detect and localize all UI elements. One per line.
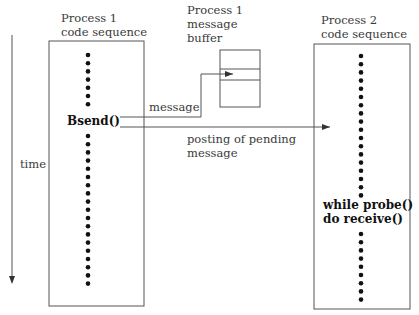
message-buffer: [220, 50, 260, 107]
posting-arrow-label: posting of pending message: [187, 132, 296, 160]
posting-label-line1: posting of pending: [187, 132, 296, 146]
buffer-title-line1: Process 1: [187, 3, 243, 17]
receive-call-line: do receive(): [323, 212, 403, 226]
process1-title-line1: Process 1: [61, 11, 147, 25]
process1-title: Process 1 code sequence: [61, 11, 147, 39]
probe-receive-label: while probe() do receive(): [323, 198, 403, 226]
posting-label-line2: message: [187, 146, 296, 160]
time-axis-arrow: [9, 35, 15, 284]
bsend-call-label: Bsend(): [67, 114, 120, 128]
process2-title: Process 2 code sequence: [321, 13, 407, 41]
buffer-title-line3: buffer: [187, 31, 243, 45]
message-arrow-label: message: [149, 100, 200, 114]
probe-call-line: while probe(): [323, 198, 403, 212]
process2-box: [314, 44, 410, 309]
buffer-title: Process 1 message buffer: [187, 3, 243, 45]
process2-code-dots: [359, 54, 364, 302]
process2-title-line1: Process 2: [321, 13, 407, 27]
process1-code-dots: [86, 53, 91, 286]
process1-title-line2: code sequence: [61, 25, 147, 39]
buffer-title-line2: message: [187, 17, 243, 31]
process2-title-line2: code sequence: [321, 27, 407, 41]
time-label: time: [20, 157, 46, 171]
process1-box: [49, 41, 144, 306]
